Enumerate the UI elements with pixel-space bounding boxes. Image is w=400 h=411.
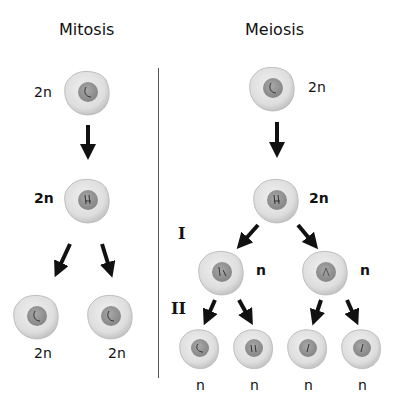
mitosis-replicated-cell	[65, 179, 109, 222]
meiosis-II-label-1: n	[196, 377, 205, 393]
mitosis-daughter-cell-2	[88, 295, 132, 338]
meiosis-I-cell-2	[303, 251, 347, 294]
meiosis-II-cell-2	[234, 330, 273, 369]
mitosis-parent-cell	[65, 71, 109, 114]
mitosis-parent-label: 2n	[34, 84, 52, 100]
meiosis-replicated-cell	[254, 179, 298, 222]
mitosis-daughter-cell-1	[14, 295, 58, 338]
meiosis-parent-label: 2n	[308, 79, 326, 95]
mitosis-replicated-label: 2n	[34, 190, 54, 206]
meiosis-I-label-2: n	[360, 262, 370, 278]
meiosis-parent-cell	[250, 67, 294, 110]
division-II-label: II	[171, 299, 186, 318]
meiosis-replicated-label: 2n	[309, 190, 329, 206]
meiosis-II-label-3: n	[304, 377, 313, 393]
meiosis-II-cell-4	[342, 330, 381, 369]
meiosis-II-label-2: n	[250, 377, 259, 393]
meiosis-I-cell-1	[199, 251, 243, 294]
division-I-label: I	[178, 224, 185, 243]
meiosis-I-label-1: n	[256, 262, 266, 278]
mitosis-daughter-label-2: 2n	[108, 345, 126, 361]
mitosis-daughter-label-1: 2n	[34, 345, 52, 361]
meiosis-II-label-4: n	[358, 377, 367, 393]
meiosis-II-cell-1	[180, 330, 219, 369]
meiosis-II-cell-3	[288, 330, 327, 369]
diagram-graphics	[0, 0, 400, 411]
